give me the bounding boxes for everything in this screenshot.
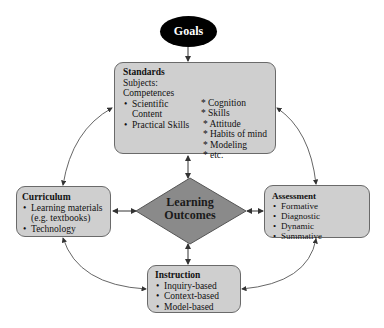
instruction-title: Instruction [155,270,233,281]
assessment-bullet: Dynamic [272,221,362,231]
goals-label: Goals [174,24,203,39]
competence-item: * Cognition [201,98,267,109]
instruction-bullet: Context-based [155,291,233,302]
competence-item: * Modeling [201,140,267,151]
competence-item: * Attitude [201,119,267,130]
curriculum-box: Curriculum Learning materials (e.g. text… [16,186,111,237]
instruction-box: Instruction Inquiry-based Context-based … [147,265,241,313]
competence-item: * etc. [201,150,267,161]
assessment-bullet: Formative [272,201,362,211]
assessment-bullet: Summative [272,231,362,241]
curriculum-bullet: Learning materials (e.g. textbooks) [22,203,105,224]
curriculum-title: Curriculum [22,192,105,203]
learning-outcomes-label: Learning Outcomes [150,196,230,222]
curriculum-bullet: Technology [22,224,105,235]
assessment-bullet: Diagnostic [272,211,362,221]
instruction-bullet: Inquiry-based [155,281,233,292]
competence-item: * Habits of mind [201,129,267,140]
standards-bullet: Practical Skills [123,120,195,131]
standards-box: Standards Subjects: Competences Scientif… [114,62,276,154]
goals-node: Goals [160,16,217,47]
standards-bullet: Scientific Content [123,99,195,120]
standards-title: Standards [123,67,267,78]
assessment-title: Assessment [272,191,362,201]
standards-subjects: Subjects: [123,78,267,89]
instruction-bullet: Model-based [155,302,233,313]
assessment-box: Assessment Formative Diagnostic Dynamic … [264,185,370,238]
outcomes-line-2: Outcomes [150,209,230,222]
competence-item: * Skills [201,108,267,119]
